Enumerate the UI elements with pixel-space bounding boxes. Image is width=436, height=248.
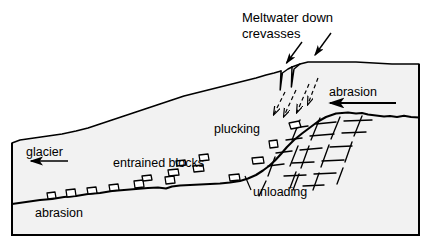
meltwater-pointer-arrow-2	[315, 33, 331, 55]
glacial-erosion-diagram: Meltwater down crevasses abrasion plucki…	[0, 0, 436, 248]
entrained-block-1	[47, 192, 56, 199]
plucking-label: plucking	[214, 122, 260, 136]
glacier-label: glacier	[26, 145, 63, 159]
diagram-canvas: Meltwater down crevasses abrasion plucki…	[0, 0, 436, 248]
abrasion-top-label: abrasion	[329, 85, 377, 99]
meltwater-pointer-arrow-1	[287, 42, 303, 63]
entrained-block-2	[66, 189, 76, 197]
entrained-block-4	[109, 184, 119, 191]
plucking-block-2	[269, 140, 278, 148]
entrained-block-3	[87, 187, 97, 194]
plucking-block-4	[229, 174, 240, 181]
entrained-block-7	[142, 175, 152, 181]
entrained-block-8	[168, 169, 179, 176]
abrasion-bottom-label: abrasion	[35, 206, 83, 220]
meltwater-label-line1: Meltwater down	[242, 10, 333, 25]
meltwater-label-line2: crevasses	[242, 26, 301, 41]
plucking-block-1	[289, 121, 301, 129]
entrained-block-6	[165, 176, 175, 184]
unloading-label: unloading	[253, 185, 307, 199]
entrained-blocks-label: entrained blocks	[113, 156, 204, 170]
plucking-block-3	[252, 157, 264, 164]
